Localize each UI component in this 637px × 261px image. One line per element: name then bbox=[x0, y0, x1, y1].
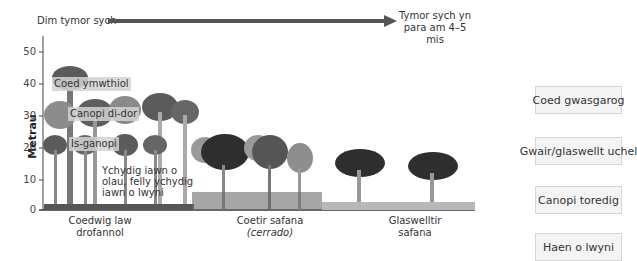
legend-scattered-trees: Coed gwasgarog bbox=[535, 86, 622, 114]
savanna-trees bbox=[322, 149, 475, 210]
biome-rainforest: Coedwig law drofannol bbox=[55, 215, 145, 239]
biome-savanna-grassland: Glaswelltir safana bbox=[370, 215, 460, 239]
tick-20: 20 bbox=[18, 142, 36, 153]
biome-cerrado: Coetir safana (cerrado) bbox=[220, 215, 320, 239]
tick-40: 40 bbox=[18, 78, 36, 89]
rainforest-note: Ychydig iawn o olau, felly ychydig iawn … bbox=[102, 165, 193, 198]
layer-continuous-canopy: Canopi di-dor bbox=[68, 107, 139, 121]
cerrado-trees bbox=[191, 134, 322, 210]
legend-tall-grass: Gwair/glaswellt uchel bbox=[535, 137, 622, 165]
layer-subcanopy: Is-ganopi bbox=[69, 137, 119, 151]
tick-50: 50 bbox=[18, 46, 36, 57]
tick-30: 30 bbox=[18, 110, 36, 121]
legend-broken-canopy: Canopi toredig bbox=[535, 186, 622, 214]
layer-emergent: Coed ymwthiol bbox=[52, 77, 131, 91]
tick-0: 0 bbox=[18, 204, 36, 215]
tick-10: 10 bbox=[18, 174, 36, 185]
legend-shrub-layer: Haen o lwyni bbox=[535, 233, 622, 261]
